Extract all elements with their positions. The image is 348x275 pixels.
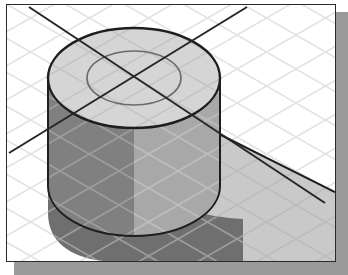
illustration-frame [6,4,336,262]
isometric-cylinder-drawing [7,5,335,261]
illustration-canvas: Isometric cylinder with concentric circl… [0,0,348,275]
